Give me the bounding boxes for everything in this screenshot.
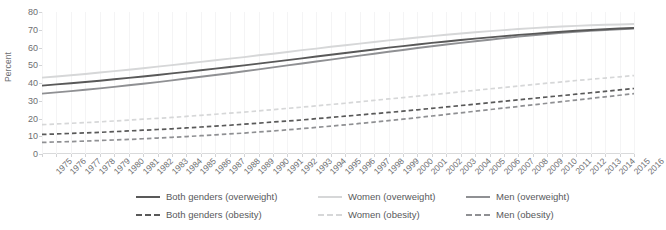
legend-label: Men (overweight) bbox=[496, 192, 569, 202]
legend-label: Women (obesity) bbox=[348, 210, 420, 220]
legend-label: Both genders (overweight) bbox=[166, 192, 277, 202]
series-line bbox=[42, 94, 634, 143]
legend-swatch-icon bbox=[136, 214, 160, 216]
legend-item[interactable]: Men (overweight) bbox=[466, 192, 606, 202]
y-tick-label: 40 bbox=[28, 78, 38, 88]
legend-swatch-icon bbox=[136, 196, 160, 198]
y-tick-label: 10 bbox=[28, 131, 38, 141]
y-tick-label: 0 bbox=[33, 149, 38, 159]
y-tick-label: 80 bbox=[28, 7, 38, 17]
legend-swatch-icon bbox=[466, 214, 490, 216]
y-tick-label: 60 bbox=[28, 43, 38, 53]
chart-legend: Both genders (overweight)Women (overweig… bbox=[136, 188, 636, 224]
legend-swatch-icon bbox=[318, 214, 342, 216]
legend-item[interactable]: Both genders (obesity) bbox=[136, 210, 318, 220]
series-line bbox=[42, 89, 634, 135]
y-axis-label: Percent bbox=[3, 35, 13, 99]
legend-item[interactable]: Men (obesity) bbox=[466, 210, 606, 220]
gridline bbox=[634, 12, 635, 154]
legend-swatch-icon bbox=[318, 196, 342, 198]
plot-area: 01020304050607080 bbox=[42, 12, 634, 154]
legend-item[interactable]: Women (overweight) bbox=[318, 192, 466, 202]
legend-item[interactable]: Women (obesity) bbox=[318, 210, 466, 220]
legend-label: Women (overweight) bbox=[348, 192, 435, 202]
series-lines bbox=[42, 12, 634, 154]
legend-item[interactable]: Both genders (overweight) bbox=[136, 192, 318, 202]
series-line bbox=[42, 28, 634, 86]
x-axis-labels: 1975197619771978197919801981198219831984… bbox=[42, 156, 634, 186]
y-tick-label: 20 bbox=[28, 114, 38, 124]
legend-label: Men (obesity) bbox=[496, 210, 554, 220]
y-tick-label: 30 bbox=[28, 96, 38, 106]
x-tick-mark bbox=[634, 154, 635, 157]
y-tick-label: 70 bbox=[28, 25, 38, 35]
legend-label: Both genders (obesity) bbox=[166, 210, 262, 220]
y-tick-label: 50 bbox=[28, 60, 38, 70]
legend-swatch-icon bbox=[466, 196, 490, 198]
